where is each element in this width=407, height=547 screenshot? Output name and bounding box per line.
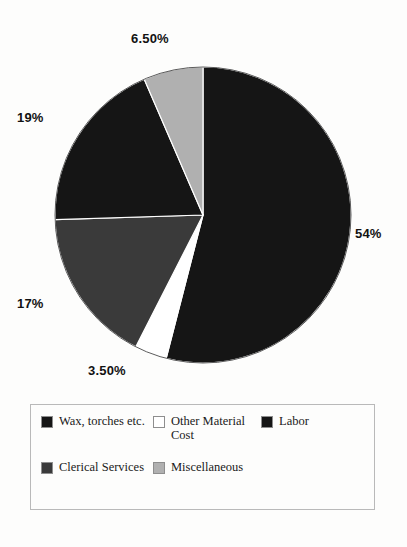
slice-label-miscellaneous: 6.50% — [131, 31, 169, 46]
legend-grid: Wax, torches etc. Other Material Cost La… — [41, 414, 368, 474]
legend-item-label: Miscellaneous — [171, 460, 243, 474]
slice-label-other-material-cost: 3.50% — [88, 363, 126, 378]
legend-item-label: Wax, torches etc. — [59, 414, 145, 428]
pie-chart-svg — [0, 0, 407, 395]
slice-label-clerical-services: 17% — [17, 296, 44, 311]
pie-chart-figure: 6.50% 54% 3.50% 19% 17% Wax, torches etc… — [0, 0, 407, 547]
pie-chart-plot-area: 6.50% 54% 3.50% 19% 17% — [0, 0, 407, 395]
slice-label-wax-torches: 19% — [17, 110, 44, 125]
legend-item-clerical-services: Clerical Services — [41, 460, 153, 474]
legend-item-labor: Labor — [261, 414, 368, 442]
slice-label-labor: 54% — [355, 226, 382, 241]
legend-swatch-icon — [261, 416, 273, 428]
legend-swatch-icon — [41, 462, 53, 474]
legend-item-label: Other Material Cost — [171, 414, 257, 442]
legend-swatch-icon — [153, 416, 165, 428]
legend-item-label: Labor — [279, 414, 309, 428]
legend-item-wax-torches: Wax, torches etc. — [41, 414, 153, 442]
legend-item-other-material-cost: Other Material Cost — [153, 414, 261, 442]
pie-slice-group — [55, 67, 351, 363]
legend-item-miscellaneous: Miscellaneous — [153, 460, 261, 474]
legend-swatch-icon — [153, 462, 165, 474]
legend-swatch-icon — [41, 416, 53, 428]
chart-legend: Wax, torches etc. Other Material Cost La… — [30, 404, 375, 510]
legend-item-label: Clerical Services — [59, 460, 144, 474]
